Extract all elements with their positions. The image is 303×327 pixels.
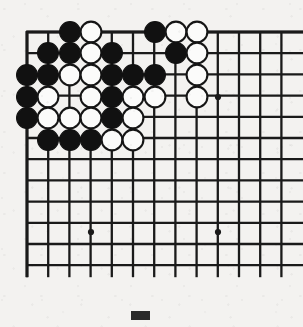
black-stone[interactable] — [38, 130, 59, 151]
white-stone[interactable] — [81, 22, 102, 43]
white-stone[interactable] — [81, 65, 102, 86]
black-stone[interactable] — [102, 43, 123, 64]
black-stone[interactable] — [145, 65, 166, 86]
black-stone[interactable] — [145, 22, 166, 43]
white-stone[interactable] — [166, 22, 187, 43]
white-stone[interactable] — [81, 43, 102, 64]
white-stone[interactable] — [60, 108, 81, 129]
white-stone[interactable] — [187, 87, 208, 108]
go-board-canvas[interactable] — [0, 0, 303, 327]
star-point-icon — [215, 229, 221, 235]
black-stone[interactable] — [17, 87, 38, 108]
black-stone[interactable] — [166, 43, 187, 64]
black-stone[interactable] — [123, 65, 144, 86]
black-stone[interactable] — [38, 65, 59, 86]
white-stone[interactable] — [60, 65, 81, 86]
star-point-icon — [215, 94, 221, 100]
black-stone[interactable] — [38, 43, 59, 64]
white-stone[interactable] — [38, 87, 59, 108]
white-stone[interactable] — [123, 108, 144, 129]
white-stone[interactable] — [81, 108, 102, 129]
black-stone[interactable] — [81, 130, 102, 151]
white-stone[interactable] — [187, 43, 208, 64]
white-stone[interactable] — [187, 65, 208, 86]
black-stone[interactable] — [17, 65, 38, 86]
white-stone[interactable] — [102, 130, 123, 151]
black-stone[interactable] — [102, 87, 123, 108]
black-stone[interactable] — [102, 108, 123, 129]
caption-marker-icon — [131, 311, 150, 320]
black-stone[interactable] — [60, 22, 81, 43]
star-point-icon — [88, 229, 94, 235]
go-board-figure — [0, 0, 303, 327]
white-stone[interactable] — [123, 87, 144, 108]
white-stone[interactable] — [123, 130, 144, 151]
white-stone[interactable] — [81, 87, 102, 108]
black-stone[interactable] — [102, 65, 123, 86]
black-stone[interactable] — [60, 43, 81, 64]
white-stone[interactable] — [145, 87, 166, 108]
white-stone[interactable] — [38, 108, 59, 129]
black-stone[interactable] — [17, 108, 38, 129]
white-stone[interactable] — [187, 22, 208, 43]
black-stone[interactable] — [60, 130, 81, 151]
